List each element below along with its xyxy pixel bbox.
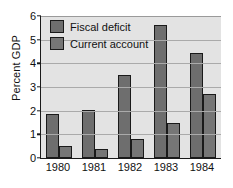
gridline <box>41 87 221 88</box>
bar <box>131 139 144 158</box>
x-axis-tick-labels: 19801981198219831984 <box>40 161 220 173</box>
y-axis-tick-mark <box>37 86 41 87</box>
bar <box>59 146 72 158</box>
legend-item: Fiscal deficit <box>50 20 148 33</box>
x-axis-tick-label: 1982 <box>112 161 148 173</box>
bar <box>167 123 180 159</box>
y-axis-tick-mark <box>37 39 41 40</box>
y-axis-tick-mark <box>37 110 41 111</box>
legend-label: Fiscal deficit <box>70 21 131 33</box>
y-axis-tick-mark <box>37 15 41 16</box>
gridline <box>41 111 221 112</box>
gridline <box>41 63 221 64</box>
y-axis-title: Percent GDP <box>10 20 22 116</box>
bar <box>190 53 203 158</box>
bar-chart-figure: Percent GDP 0123456 19801981198219831984… <box>0 0 233 188</box>
chart-legend: Fiscal deficitCurrent account <box>50 20 148 50</box>
bar <box>46 114 59 158</box>
legend-swatch-icon <box>50 20 64 33</box>
y-axis-tick-mark <box>37 134 41 135</box>
legend-item: Current account <box>50 37 148 50</box>
x-axis-tick-label: 1984 <box>184 161 220 173</box>
y-axis-tick-mark <box>37 63 41 64</box>
legend-swatch-icon <box>50 37 64 50</box>
x-axis-tick-label: 1980 <box>40 161 76 173</box>
gridline <box>41 134 221 135</box>
x-axis-tick-label: 1983 <box>148 161 184 173</box>
bar <box>95 149 108 158</box>
legend-label: Current account <box>70 38 148 50</box>
x-axis-tick-label: 1981 <box>76 161 112 173</box>
bar <box>154 25 167 158</box>
y-axis-tick-mark <box>37 157 41 158</box>
bar <box>203 94 216 158</box>
